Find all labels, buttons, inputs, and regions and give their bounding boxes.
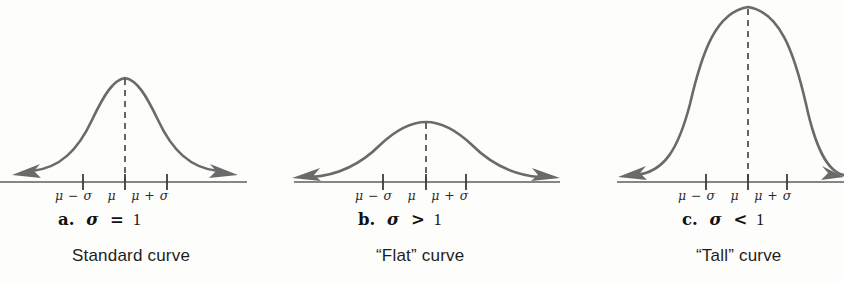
panel-letter: b. xyxy=(358,210,375,229)
normal-curves-figure: μ − σ μ μ + σ a. σ = 1 Standard curve xyxy=(0,0,844,283)
tick-label-minus-sigma: μ − σ xyxy=(355,188,393,203)
tick-label-plus-sigma: μ + σ xyxy=(131,188,169,203)
tick-label-minus-sigma: μ − σ xyxy=(55,188,93,203)
tick-label-mu: μ xyxy=(408,188,417,203)
tick-label-mu: μ xyxy=(731,188,740,203)
panel-description: Standard curve xyxy=(72,246,190,272)
curve-svg-c xyxy=(560,0,844,200)
right-arrowhead xyxy=(531,168,560,181)
panel-letter: c. xyxy=(682,210,698,229)
sigma-symbol: σ xyxy=(704,210,725,229)
panel-standard-curve: μ − σ μ μ + σ a. σ = 1 Standard curve xyxy=(0,0,280,283)
sigma-value: 1 xyxy=(133,210,141,229)
tick-label-row: μ − σ μ μ + σ xyxy=(355,188,469,208)
plot-area-c xyxy=(560,0,844,200)
plot-area-a xyxy=(0,0,280,200)
panel-caption: a. σ = 1 xyxy=(58,210,141,234)
tick-label-plus-sigma: μ + σ xyxy=(754,188,792,203)
left-arrowhead xyxy=(292,168,321,181)
tick-label-plus-sigma: μ + σ xyxy=(431,188,469,203)
panel-flat-curve: μ − σ μ μ + σ b. σ > 1 “Flat” curve xyxy=(280,0,560,283)
sigma-symbol: σ xyxy=(80,210,101,229)
relation-operator: > xyxy=(408,210,428,229)
tick-label-row: μ − σ μ μ + σ xyxy=(55,188,169,208)
panel-description: “Tall” curve xyxy=(696,246,782,272)
curve-svg-b xyxy=(280,0,560,200)
panel-description: “Flat” curve xyxy=(376,246,464,272)
panel-letter: a. xyxy=(58,210,74,229)
sigma-symbol: σ xyxy=(381,210,402,229)
bell-curve xyxy=(636,7,844,175)
plot-area-b xyxy=(280,0,560,200)
curve-svg-a xyxy=(0,0,280,200)
sigma-value: 1 xyxy=(756,210,764,229)
tick-label-row: μ − σ μ μ + σ xyxy=(678,188,792,208)
panel-caption: c. σ < 1 xyxy=(682,210,764,234)
relation-operator: < xyxy=(730,210,750,229)
sigma-value: 1 xyxy=(434,210,442,229)
relation-operator: = xyxy=(107,210,127,229)
panel-caption: b. σ > 1 xyxy=(358,210,442,234)
tick-label-minus-sigma: μ − σ xyxy=(678,188,716,203)
panel-tall-curve: μ − σ μ μ + σ c. σ < 1 “Tall” curve xyxy=(560,0,844,283)
tick-label-mu: μ xyxy=(108,188,117,203)
